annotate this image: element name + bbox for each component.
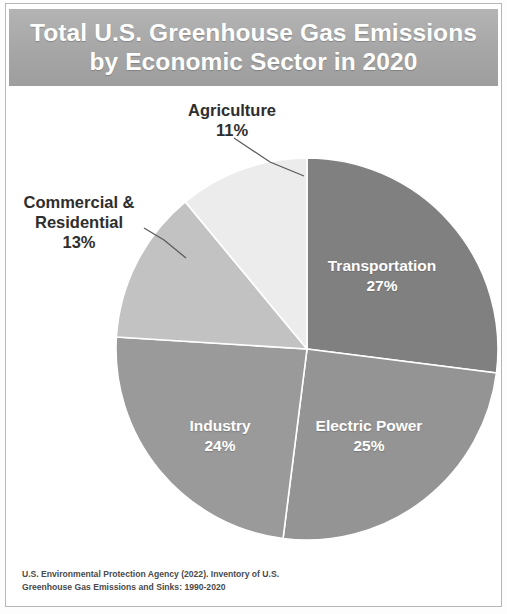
chart-title-banner: Total U.S. Greenhouse Gas Emissions by E…: [9, 9, 498, 86]
chart-title-line-2: by Economic Sector in 2020: [89, 48, 417, 76]
source-citation-line-1: U.S. Environmental Protection Agency (20…: [22, 568, 422, 581]
slice-label-transportation: Transportation 27%: [302, 256, 462, 296]
source-citation: U.S. Environmental Protection Agency (20…: [22, 568, 422, 595]
agriculture-leader-line: [234, 136, 304, 180]
slice-label-agriculture: Agriculture 11%: [162, 100, 302, 140]
slice-label-commercial-residential-value: 13%: [2, 232, 156, 252]
slice-label-transportation-name: Transportation: [302, 256, 462, 276]
slice-label-commercial-residential: Commercial & Residential 13%: [2, 192, 156, 252]
slice-label-electric-power-value: 25%: [294, 436, 444, 456]
chart-title-line-1: Total U.S. Greenhouse Gas Emissions: [30, 19, 477, 47]
slice-label-transportation-value: 27%: [302, 276, 462, 296]
slice-label-electric-power-name: Electric Power: [294, 416, 444, 436]
slice-label-commercial-residential-name-2: Residential: [2, 212, 156, 232]
pie-chart-svg: [116, 158, 498, 540]
slice-label-industry-value: 24%: [154, 436, 286, 456]
slice-label-agriculture-value: 11%: [162, 120, 302, 140]
slice-label-electric-power: Electric Power 25%: [294, 416, 444, 456]
slice-label-industry: Industry 24%: [154, 416, 286, 456]
pie-chart-area: Agriculture 11% Commercial & Residential…: [6, 88, 501, 553]
slice-label-commercial-residential-name-1: Commercial &: [2, 192, 156, 212]
pie-chart: [116, 158, 498, 540]
slice-label-agriculture-name: Agriculture: [162, 100, 302, 120]
source-citation-line-2: Greenhouse Gas Emissions and Sinks: 1990…: [22, 581, 422, 594]
chart-page: Total U.S. Greenhouse Gas Emissions by E…: [0, 0, 507, 614]
slice-label-industry-name: Industry: [154, 416, 286, 436]
